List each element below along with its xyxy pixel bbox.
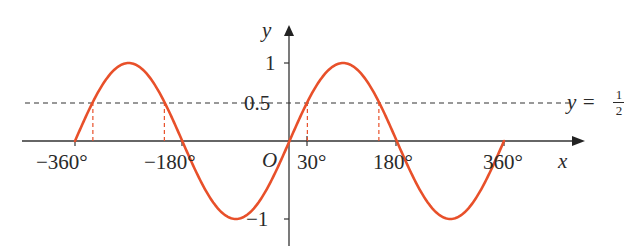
x-tick-label-neg360: −360° [36,152,88,173]
x-tick-label-30: 30° [297,152,326,173]
half-line-fraction-denominator: 2 [614,104,624,117]
sine-graph: y 1 0.5 −1 O −360° −180° 30° 180° 360° x… [0,0,640,246]
y-axis-label: y [262,20,271,41]
y-axis-arrow-icon [284,25,294,36]
x-tick-label-180: 180° [373,152,413,173]
y-tick-label-neg1: −1 [246,209,268,230]
y-tick-label-1: 1 [265,53,276,74]
half-line-fraction-numerator: 1 [614,88,624,101]
x-tick-label-neg180: −180° [144,152,196,173]
x-axis-label: x [558,151,567,172]
origin-label: O [262,150,277,171]
y-tick-label-half: 0.5 [244,93,270,114]
intersection-drop-lines [93,102,379,141]
x-axis-arrow-icon [572,136,585,146]
x-tick-label-360: 360° [483,152,523,173]
half-line-label: y = [567,92,596,113]
plot-area [0,0,640,246]
